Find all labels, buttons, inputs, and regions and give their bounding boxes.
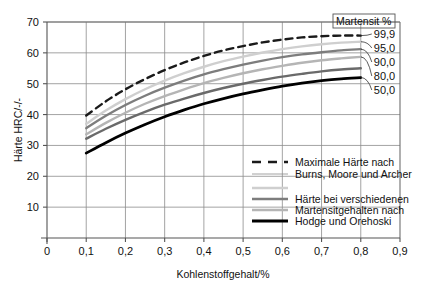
- chart-canvas: 00,10,20,30,40,50,60,70,80,9 10203040506…: [0, 0, 422, 288]
- martensite-percent-header: Martensit %: [336, 15, 391, 27]
- x-tick-label: 0,4: [196, 245, 211, 257]
- y-axis-title: Härte HRC/-/-: [12, 97, 24, 162]
- y-tick-label: 20: [27, 170, 39, 182]
- y-tick-label: 70: [27, 16, 39, 28]
- x-tick-label: 0,9: [392, 245, 407, 257]
- series-end-label-50-0: 50,0: [374, 84, 395, 96]
- x-tick-label: 0,2: [118, 245, 133, 257]
- x-tick-label: 0,3: [157, 245, 172, 257]
- series-end-label-90-0: 90,0: [374, 56, 395, 68]
- y-tick-label: 40: [27, 109, 39, 121]
- x-tick-label: 0,5: [235, 245, 250, 257]
- chart-figure: 00,10,20,30,40,50,60,70,80,9 10203040506…: [0, 0, 422, 288]
- y-tick-label: 60: [27, 47, 39, 59]
- x-axis-title: Kohlenstoffgehalt/%: [176, 268, 269, 280]
- y-tick-label: 30: [27, 139, 39, 151]
- legend-label: Hodge und Orehoski: [295, 215, 391, 227]
- x-tick-label: 0,1: [79, 245, 94, 257]
- legend-label: Maximale Härte nach: [295, 156, 394, 168]
- series-end-label-80-0: 80,0: [374, 70, 395, 82]
- series-end-label-99-9: 99,9: [374, 28, 395, 40]
- x-tick-label: 0: [44, 245, 50, 257]
- y-tick-label: 10: [27, 201, 39, 213]
- x-tick-label: 0,8: [353, 245, 368, 257]
- series-end-label-95-0: 95,0: [374, 42, 395, 54]
- y-tick-label: 50: [27, 78, 39, 90]
- x-tick-label: 0,7: [314, 245, 329, 257]
- x-tick-label: 0,6: [275, 245, 290, 257]
- legend-label: Burns, Moore und Archer: [295, 168, 412, 180]
